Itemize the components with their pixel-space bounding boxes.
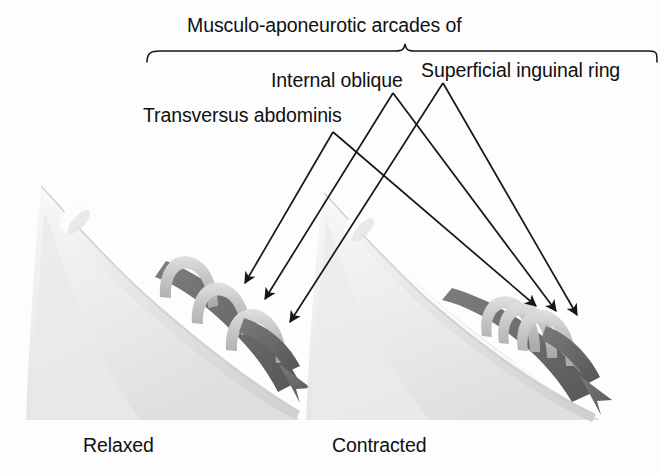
caption-contracted: Contracted (332, 434, 426, 457)
anatomy-figure: Musculo-aponeurotic arcades of Internal … (0, 0, 660, 473)
leader-internal-oblique-right (393, 93, 556, 311)
caption-relaxed: Relaxed (83, 434, 154, 457)
figure-title: Musculo-aponeurotic arcades of (187, 14, 462, 37)
label-transversus-abdominis: Transversus abdominis (143, 104, 342, 127)
leader-transversus-abdominis-right (333, 132, 536, 306)
label-internal-oblique: Internal oblique (271, 69, 403, 92)
label-superficial-inguinal-ring: Superficial inguinal ring (421, 59, 620, 82)
leader-superficial-inguinal-ring-right (443, 83, 577, 315)
